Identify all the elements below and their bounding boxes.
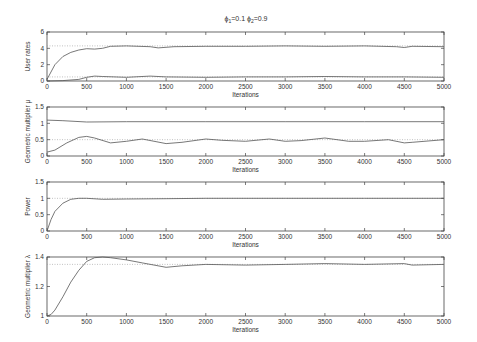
- x-tick-label: 0: [45, 158, 49, 165]
- x-tick-label: 4000: [357, 158, 372, 165]
- series-line: [47, 46, 444, 80]
- y-tick-label: 1: [40, 312, 44, 319]
- y-tick-label: 0: [40, 227, 44, 234]
- subplot-2: 0500100015002000250030003500400045005000…: [24, 100, 452, 173]
- y-tick-label: 0.5: [35, 136, 44, 143]
- x-tick-label: 3500: [318, 158, 333, 165]
- x-tick-label: 2500: [238, 83, 253, 90]
- subplot-3: 0500100015002000250030003500400045005000…: [24, 178, 452, 248]
- x-tick-label: 500: [81, 318, 92, 325]
- x-tick-label: 1500: [159, 158, 174, 165]
- axes-frame: [47, 257, 444, 316]
- y-tick-label: 1.4: [35, 253, 44, 260]
- series-line: [47, 257, 444, 316]
- x-tick-label: 5000: [437, 83, 452, 90]
- x-tick-label: 2500: [238, 318, 253, 325]
- y-tick-label: 1: [40, 195, 44, 202]
- y-tick-label: 2: [40, 61, 44, 68]
- y-axis-label: Geometric multiplier μ: [24, 100, 32, 164]
- x-tick-label: 1500: [159, 318, 174, 325]
- x-tick-label: 500: [81, 233, 92, 240]
- y-tick-label: 1: [40, 120, 44, 127]
- y-axis-label: Power: [24, 196, 31, 215]
- x-tick-label: 1000: [119, 158, 134, 165]
- subplot-4: 0500100015002000250030003500400045005000…: [24, 253, 452, 333]
- x-tick-label: 0: [45, 318, 49, 325]
- subplot-1: 0500100015002000250030003500400045005000…: [24, 28, 452, 98]
- x-tick-label: 4500: [397, 318, 412, 325]
- x-tick-label: 0: [45, 233, 49, 240]
- x-tick-label: 1000: [119, 318, 134, 325]
- y-tick-label: 1.5: [35, 178, 44, 185]
- x-tick-label: 3500: [318, 83, 333, 90]
- x-tick-label: 4000: [357, 318, 372, 325]
- x-tick-label: 3000: [278, 318, 293, 325]
- x-tick-label: 500: [81, 158, 92, 165]
- x-tick-label: 3000: [278, 83, 293, 90]
- y-tick-label: 4: [40, 45, 44, 52]
- x-tick-label: 1500: [159, 233, 174, 240]
- x-tick-label: 2000: [199, 318, 214, 325]
- figure-title: ϕ1=0.1 ϕ2=0.9: [225, 15, 268, 24]
- y-tick-label: 1.2: [35, 283, 44, 290]
- y-tick-label: 0.5: [35, 211, 44, 218]
- x-tick-label: 4500: [397, 83, 412, 90]
- y-tick-label: 0: [40, 77, 44, 84]
- x-tick-label: 1000: [119, 233, 134, 240]
- y-tick-label: 1.5: [35, 103, 44, 110]
- x-axis-label: Iterations: [232, 166, 259, 173]
- axes-frame: [47, 107, 444, 156]
- x-axis-label: Iterations: [232, 241, 259, 248]
- x-tick-label: 2500: [238, 158, 253, 165]
- x-axis-label: Iterations: [232, 91, 259, 98]
- axes-frame: [47, 32, 444, 81]
- x-tick-label: 500: [81, 83, 92, 90]
- x-tick-label: 3000: [278, 158, 293, 165]
- x-tick-label: 4000: [357, 83, 372, 90]
- x-tick-label: 5000: [437, 158, 452, 165]
- x-tick-label: 2500: [238, 233, 253, 240]
- y-tick-label: 6: [40, 28, 44, 35]
- axes-frame: [47, 182, 444, 231]
- x-tick-label: 5000: [437, 233, 452, 240]
- y-axis-label: Geometric multiplier λ: [24, 254, 32, 318]
- x-tick-label: 3500: [318, 233, 333, 240]
- x-tick-label: 4500: [397, 158, 412, 165]
- y-tick-label: 0: [40, 152, 44, 159]
- x-tick-label: 4500: [397, 233, 412, 240]
- x-axis-label: Iterations: [232, 326, 259, 333]
- x-tick-label: 5000: [437, 318, 452, 325]
- x-tick-label: 1500: [159, 83, 174, 90]
- x-tick-label: 3000: [278, 233, 293, 240]
- x-tick-label: 0: [45, 83, 49, 90]
- series-line: [47, 120, 444, 122]
- x-tick-label: 2000: [199, 158, 214, 165]
- figure: ϕ1=0.1 ϕ2=0.9 05001000150020002500300035…: [0, 0, 477, 342]
- x-tick-label: 2000: [199, 83, 214, 90]
- x-tick-label: 3500: [318, 318, 333, 325]
- x-tick-label: 4000: [357, 233, 372, 240]
- series-line: [47, 198, 444, 231]
- x-tick-label: 1000: [119, 83, 134, 90]
- y-axis-label: User rates: [24, 41, 31, 72]
- series-line: [47, 136, 444, 152]
- x-tick-label: 2000: [199, 233, 214, 240]
